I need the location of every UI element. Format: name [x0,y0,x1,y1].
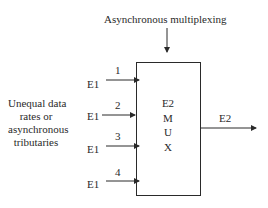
input-number-3: 3 [115,130,121,142]
left-label-line-1: Unequal data [8,97,64,109]
input-number-4: 4 [115,166,121,178]
input-label-2: E1 [87,110,99,122]
diagram-title: Asynchronous multiplexing [104,13,227,25]
mux-label-line-3: U [156,126,180,138]
input-label-4: E1 [87,178,99,190]
input-label-1: E1 [87,78,99,90]
mux-label-line-2: M [156,112,180,124]
left-label-line-2: rates or [8,110,64,122]
output-label: E2 [219,112,231,124]
left-label-line-4: tributaries [8,136,64,148]
input-label-3: E1 [87,143,99,155]
left-label-line-3: asynchronous [8,123,64,135]
mux-label-line-4: X [156,141,180,153]
input-number-1: 1 [115,64,121,76]
mux-label-line-1: E2 [156,97,180,109]
input-number-2: 2 [115,99,121,111]
